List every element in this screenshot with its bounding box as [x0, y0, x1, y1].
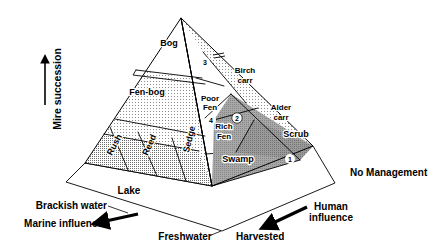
axis-label-mire-succession: Mire succession — [51, 48, 63, 130]
mire-succession-pyramid-figure: Bog Fen-bog Poor Fen Birch carr Alder ca… — [0, 0, 442, 250]
marker-2-label: 2 — [235, 115, 239, 122]
base-label-marine-influence: Marine influence — [24, 218, 103, 229]
marker-3-label: 3 — [203, 59, 207, 66]
zone-label-poor-fen-line1: Poor — [201, 94, 219, 103]
zone-label-swamp: Swamp — [222, 154, 254, 164]
pyramid-diagram-canvas: Bog Fen-bog Poor Fen Birch carr Alder ca… — [0, 0, 442, 250]
zone-label-alder-carr-line2: carr — [273, 113, 288, 122]
base-label-harvested: Harvested — [236, 231, 284, 242]
zone-label-alder-carr-line1: Alder — [271, 103, 291, 112]
left-arrow-icon — [106, 214, 138, 221]
base-label-brackish-water: Brackish water — [36, 200, 107, 211]
zone-label-birch-carr-line1: Birch — [235, 66, 256, 75]
zone-label-bog: Bog — [160, 38, 178, 48]
axis-mire-succession: Mire succession — [45, 48, 63, 130]
zone-label-birch-carr-line2: carr — [237, 76, 252, 85]
zone-label-rich-fen-line1: Rich — [215, 122, 232, 131]
zone-label-rich-fen-line2: Fen — [217, 132, 231, 141]
marker-1-label: 1 — [288, 156, 292, 163]
zone-label-scrub: Scrub — [283, 129, 309, 139]
zone-label-poor-fen-line2: Fen — [203, 103, 217, 112]
base-label-freshwater: Freshwater — [158, 231, 211, 242]
face-left — [85, 18, 212, 186]
marker-4-label: 4 — [209, 117, 213, 124]
base-label-influence: influence — [309, 212, 353, 223]
down-left-arrow-icon — [273, 207, 307, 223]
base-label-lake: Lake — [118, 185, 141, 196]
zone-label-fen-bog: Fen-bog — [129, 87, 165, 97]
base-label-human: Human — [314, 201, 348, 212]
base-label-no-management: No Management — [350, 167, 428, 178]
brackish-water-leader-line — [108, 206, 128, 213]
